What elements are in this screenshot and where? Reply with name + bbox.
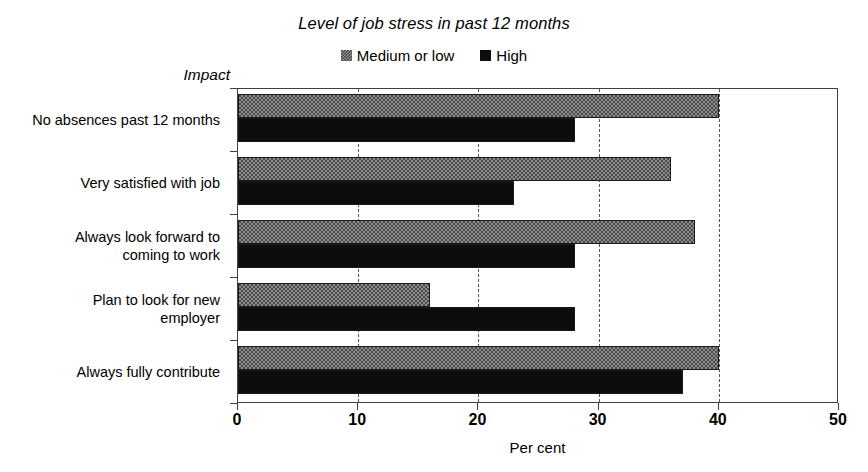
bar-high-2 [238, 244, 575, 268]
x-tick-10 [357, 403, 358, 410]
y-tick-3 [230, 340, 237, 341]
category-label-line: Very satisfied with job [0, 174, 220, 192]
category-label-line: Always look forward to [0, 228, 220, 246]
y-tick-4 [230, 403, 237, 404]
y-tick-1 [230, 214, 237, 215]
category-label-4: Always fully contribute [0, 363, 220, 381]
x-tick-0 [237, 403, 238, 410]
legend-entry-medium-or-low: Medium or low [341, 47, 455, 64]
chart-title: Level of job stress in past 12 months [0, 14, 868, 33]
category-label-line: employer [0, 309, 220, 327]
x-tick-label-50: 50 [808, 411, 868, 429]
x-tick-40 [718, 403, 719, 410]
category-label-line: Plan to look for new [0, 291, 220, 309]
category-label-line: Always fully contribute [0, 363, 220, 381]
category-label-0: No absences past 12 months [0, 111, 220, 129]
category-label-3: Plan to look for newemployer [0, 291, 220, 327]
category-label-line: coming to work [0, 246, 220, 264]
bar-medium-or-low-0 [238, 94, 719, 118]
bar-high-0 [238, 118, 575, 142]
bar-medium-or-low-2 [238, 220, 695, 244]
y-axis-title: Impact [120, 66, 230, 84]
category-label-2: Always look forward tocoming to work [0, 228, 220, 264]
x-tick-label-10: 10 [327, 411, 387, 429]
bar-medium-or-low-4 [238, 346, 719, 370]
bar-high-1 [238, 181, 514, 205]
legend-entry-high: High [480, 47, 527, 64]
chart-legend: Medium or low High [0, 47, 868, 64]
x-tick-label-0: 0 [207, 411, 267, 429]
category-label-line: No absences past 12 months [0, 111, 220, 129]
category-label-1: Very satisfied with job [0, 174, 220, 192]
bar-high-3 [238, 307, 575, 331]
bar-medium-or-low-1 [238, 157, 671, 181]
x-tick-label-30: 30 [568, 411, 628, 429]
x-tick-20 [477, 403, 478, 410]
legend-label-high: High [496, 47, 527, 64]
x-tick-label-40: 40 [688, 411, 748, 429]
x-tick-30 [598, 403, 599, 410]
job-stress-bar-chart: Level of job stress in past 12 months Me… [0, 0, 868, 472]
x-tick-label-20: 20 [447, 411, 507, 429]
x-tick-50 [838, 403, 839, 410]
y-tick-2 [230, 277, 237, 278]
legend-label-medium-or-low: Medium or low [357, 47, 455, 64]
y-tick-0 [230, 151, 237, 152]
bar-medium-or-low-3 [238, 283, 430, 307]
gridline-40 [719, 89, 720, 402]
y-tick-top [230, 88, 237, 89]
legend-swatch-medium-or-low [341, 50, 352, 61]
bar-high-4 [238, 370, 683, 394]
plot-area [237, 88, 838, 403]
x-axis-title: Per cent [237, 439, 838, 456]
legend-swatch-high [480, 50, 491, 61]
